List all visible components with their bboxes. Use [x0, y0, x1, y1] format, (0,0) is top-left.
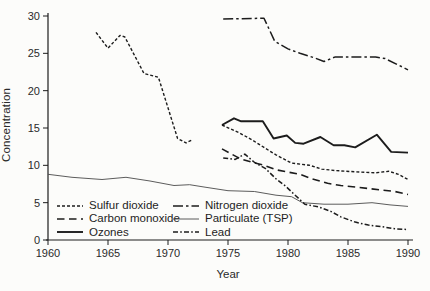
legend-label-carbon-monoxide: Carbon monoxide: [89, 213, 180, 225]
x-tick-label: 1975: [216, 247, 240, 259]
legend-line-sample-lead: [173, 228, 199, 236]
y-tick-label: 0: [34, 234, 40, 246]
legend-line-sample-ozones: [57, 228, 83, 236]
y-tick-label: 15: [28, 122, 40, 134]
legend-item-sulfur-dioxide: Sulfur dioxide: [57, 199, 173, 212]
series-line-carbon-monoxide: [222, 149, 408, 195]
y-tick-label: 10: [28, 159, 40, 171]
y-tick-label: 20: [28, 85, 40, 97]
legend-item-lead: Lead: [173, 226, 293, 239]
y-tick-label: 25: [28, 47, 40, 59]
x-tick-label: 1970: [156, 247, 180, 259]
y-tick-label: 30: [28, 10, 40, 22]
y-tick-label: 5: [34, 197, 40, 209]
legend-line-sample-nitrogen-dioxide: [173, 202, 199, 210]
legend-label-nitrogen-dioxide: Nitrogen dioxide: [205, 200, 288, 212]
x-tick-label: 1990: [396, 247, 420, 259]
legend-label-lead: Lead: [205, 227, 231, 239]
legend: Sulfur dioxideCarbon monoxideOzonesNitro…: [57, 199, 293, 239]
legend-item-ozones: Ozones: [57, 226, 173, 239]
legend-label-particulate-tsp: Particulate (TSP): [205, 213, 293, 225]
x-axis-title: Year: [168, 268, 288, 280]
x-tick-label: 1985: [336, 247, 360, 259]
x-tick-label: 1965: [96, 247, 120, 259]
legend-item-carbon-monoxide: Carbon monoxide: [57, 212, 173, 225]
legend-label-sulfur-dioxide: Sulfur dioxide: [89, 200, 159, 212]
series-line-sulfur-dioxide: [96, 32, 192, 142]
x-tick-label: 1980: [276, 247, 300, 259]
y-axis-title: Concentration: [0, 73, 12, 177]
series-line-ozones: [222, 118, 408, 152]
x-tick-label: 1960: [36, 247, 60, 259]
legend-item-nitrogen-dioxide: Nitrogen dioxide: [173, 199, 293, 212]
legend-item-particulate-tsp: Particulate (TSP): [173, 212, 293, 225]
pollutant-concentration-figure: 0510152025301960196519701975198019851990…: [0, 0, 430, 291]
legend-line-sample-sulfur-dioxide: [57, 202, 83, 210]
chart-canvas: 0510152025301960196519701975198019851990: [0, 0, 430, 291]
legend-line-sample-particulate-tsp: [173, 215, 199, 223]
legend-label-ozones: Ozones: [89, 227, 129, 239]
series-line-nitrogen-dioxide: [223, 18, 408, 70]
series-line-sulfur-dioxide: [222, 125, 408, 180]
legend-line-sample-carbon-monoxide: [57, 215, 83, 223]
